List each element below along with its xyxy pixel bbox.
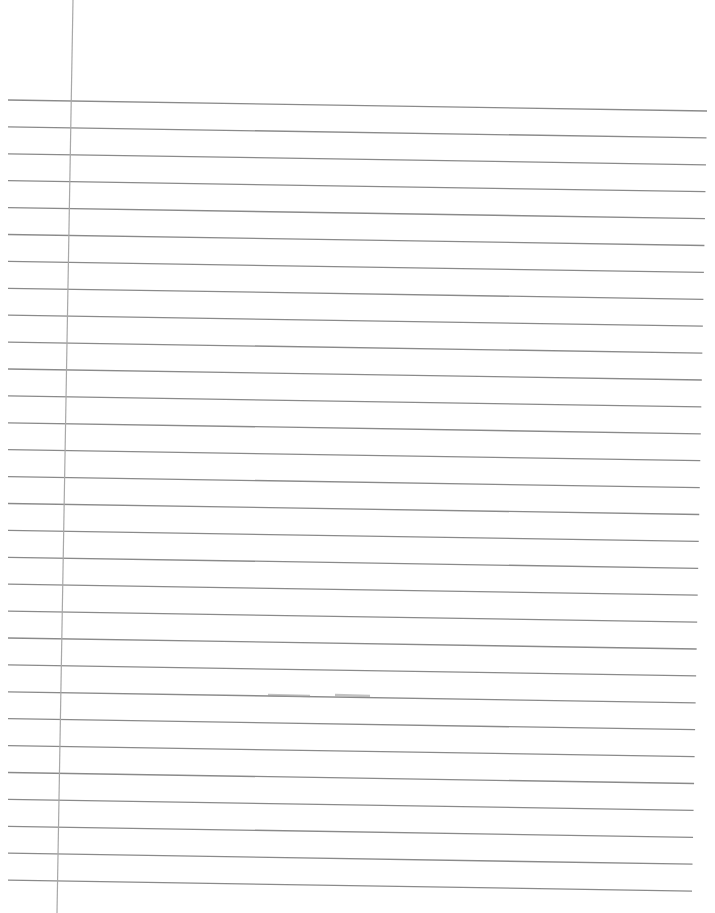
ruled-line <box>8 423 701 434</box>
ruled-line <box>8 853 693 864</box>
ruled-line <box>8 235 704 246</box>
ruled-line <box>8 719 695 730</box>
ruled-line <box>8 611 697 622</box>
margin-line <box>57 0 73 913</box>
ruled-line <box>8 773 694 784</box>
ruled-line <box>8 530 699 541</box>
ruled-line <box>8 315 703 326</box>
ruled-lines <box>8 100 707 891</box>
ruled-line <box>8 154 706 165</box>
ruled-line <box>8 746 695 757</box>
ruled-line <box>8 181 705 192</box>
ruled-line <box>8 692 696 703</box>
ruled-line <box>8 369 702 380</box>
ruled-line <box>8 584 698 595</box>
ruled-line <box>8 288 703 299</box>
ruled-line <box>8 450 700 461</box>
ruled-line <box>8 477 700 488</box>
ruled-line <box>8 261 704 272</box>
ruled-line <box>8 665 696 676</box>
ruled-line <box>8 557 698 568</box>
ruled-line <box>8 504 699 515</box>
ruled-line <box>8 342 702 353</box>
ruled-line <box>8 638 697 649</box>
lined-paper <box>0 0 715 913</box>
ruled-line <box>8 127 706 138</box>
ruled-line <box>8 826 693 837</box>
ruled-line <box>8 396 701 407</box>
ruled-line <box>8 208 705 219</box>
scan-smudge <box>268 695 370 696</box>
ruled-line <box>8 880 692 891</box>
ruled-line <box>8 799 694 810</box>
ruled-line <box>8 100 707 111</box>
